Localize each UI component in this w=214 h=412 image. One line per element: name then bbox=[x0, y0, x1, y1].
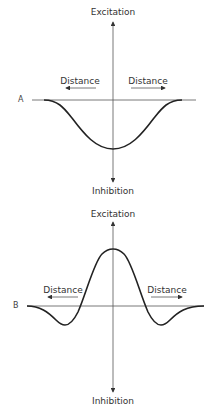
panel-a-right-distance-label: Distance bbox=[128, 77, 167, 86]
diagram-canvas bbox=[0, 0, 214, 412]
panel-b-inhibition-label: Inhibition bbox=[92, 397, 134, 406]
panel-b bbox=[27, 222, 204, 392]
panel-a-label: A bbox=[18, 96, 23, 104]
panel-b-excitation-label: Excitation bbox=[91, 210, 136, 219]
panel-b-right-distance-label: Distance bbox=[147, 286, 186, 295]
panel-a-excitation-label: Excitation bbox=[91, 8, 136, 17]
panel-a-left-distance-label: Distance bbox=[60, 77, 99, 86]
panel-a bbox=[32, 22, 196, 182]
panel-a-inhibition-label: Inhibition bbox=[92, 187, 134, 196]
panel-b-label: B bbox=[13, 302, 19, 310]
panel-b-left-distance-label: Distance bbox=[43, 286, 82, 295]
